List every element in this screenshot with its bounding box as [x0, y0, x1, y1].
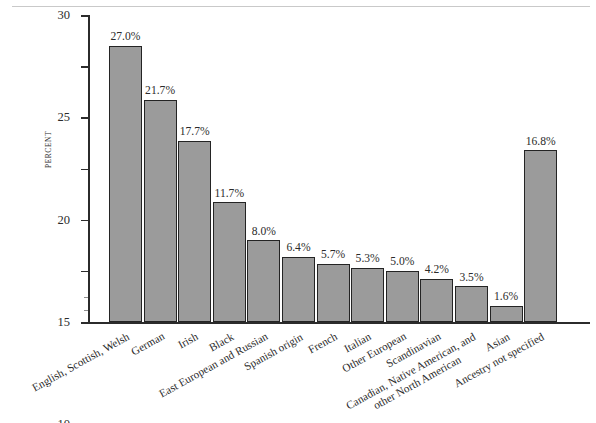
x-axis-label: Irish	[176, 330, 200, 351]
bar[interactable]	[524, 150, 557, 322]
bar-group[interactable]: 6.4%	[282, 15, 315, 322]
bar[interactable]	[178, 141, 211, 322]
bar-group[interactable]: 1.6%	[490, 15, 523, 322]
bar-value-label: 5.7%	[321, 249, 345, 261]
bar-value-label: 3.5%	[459, 272, 483, 284]
x-axis-label: German	[129, 330, 167, 358]
y-tick-label-30: 30	[58, 9, 71, 22]
bar-group[interactable]: 11.7%	[213, 15, 246, 322]
bar[interactable]	[455, 286, 488, 322]
bars-layer: 27.0%21.7%17.7%11.7%8.0%6.4%5.7%5.3%5.0%…	[88, 15, 590, 322]
y-tick-30: 30	[81, 15, 88, 17]
bar-group[interactable]: 16.8%	[524, 15, 557, 322]
bar-value-label: 27.0%	[111, 31, 141, 43]
bar-value-label: 1.6%	[494, 291, 518, 303]
y-tick-15: 15	[81, 169, 88, 171]
bar-value-label: 21.7%	[145, 85, 175, 97]
y-tick-label-15: 15	[58, 316, 71, 329]
bar[interactable]	[144, 100, 177, 322]
bar-value-label: 5.3%	[356, 253, 380, 265]
bar-value-label: 5.0%	[390, 256, 414, 268]
y-tick-25: 25	[81, 66, 88, 68]
bar[interactable]	[109, 46, 142, 322]
bar-value-label: 8.0%	[252, 226, 276, 238]
y-tick-label-25: 25	[58, 111, 71, 124]
bar[interactable]	[351, 268, 384, 322]
bar[interactable]	[282, 257, 315, 322]
bar-group[interactable]: 8.0%	[247, 15, 280, 322]
bar[interactable]	[247, 240, 280, 322]
x-axis-line	[88, 322, 590, 324]
bar-value-label: 11.7%	[215, 188, 245, 200]
bar[interactable]	[213, 202, 246, 322]
y-axis-title: PERCENT	[44, 131, 53, 168]
y-tick-5: 5	[81, 271, 88, 273]
plot-area: 051015202530 27.0%21.7%17.7%11.7%8.0%6.4…	[88, 15, 590, 322]
y-tick-label-20: 20	[58, 213, 71, 226]
y-tick-20: 20	[81, 117, 88, 119]
y-tick-label-10: 10	[58, 418, 71, 423]
bar-value-label: 16.8%	[526, 136, 556, 148]
bar[interactable]	[420, 279, 453, 322]
bar-value-label: 6.4%	[286, 242, 310, 254]
bar-value-label: 4.2%	[425, 264, 449, 276]
bar-value-label: 17.7%	[180, 126, 210, 138]
bar-group[interactable]: 17.7%	[178, 15, 211, 322]
bar-chart: PERCENT 051015202530 27.0%21.7%17.7%11.7…	[0, 0, 596, 423]
bar-group[interactable]: 5.7%	[317, 15, 350, 322]
bar-group[interactable]: 27.0%	[109, 15, 142, 322]
y-tick-0: 0	[81, 322, 88, 324]
bar-group[interactable]: 3.5%	[455, 15, 488, 322]
scan-artifact-line	[12, 6, 590, 7]
y-tick-10: 10	[81, 220, 88, 222]
bar-group[interactable]: 5.3%	[351, 15, 384, 322]
x-axis-label: English, Scottish, Welsh	[30, 330, 131, 394]
bar-group[interactable]: 21.7%	[144, 15, 177, 322]
bar[interactable]	[317, 264, 350, 322]
bar-group[interactable]: 4.2%	[420, 15, 453, 322]
bar[interactable]	[386, 271, 419, 322]
bar[interactable]	[490, 306, 523, 322]
x-axis-label: French	[306, 330, 339, 356]
bar-group[interactable]: 5.0%	[386, 15, 419, 322]
